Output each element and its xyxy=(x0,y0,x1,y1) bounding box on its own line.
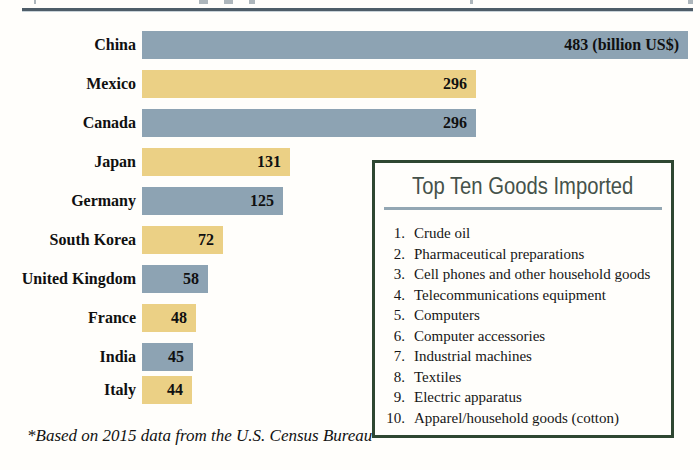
bar-value-label: 296 xyxy=(443,75,476,93)
country-label: Canada xyxy=(0,114,142,132)
bar: 125 xyxy=(142,187,283,215)
country-label: Japan xyxy=(0,153,142,171)
source-footnote: *Based on 2015 data from the U.S. Census… xyxy=(27,426,372,446)
bar-row: China483 (billion US$) xyxy=(0,31,700,59)
goods-item-text: Computers xyxy=(405,305,480,326)
bar-value-label: 131 xyxy=(257,153,290,171)
bar-value-label: 72 xyxy=(198,231,223,249)
goods-list-item: 4.Telecommunications equipment xyxy=(375,285,671,306)
goods-item-number: 5. xyxy=(375,305,405,326)
goods-list-item: 3.Cell phones and other household goods xyxy=(375,264,671,285)
cropped-text-fragment xyxy=(34,0,36,4)
goods-list-item: 10.Apparel/household goods (cotton) xyxy=(375,408,671,429)
bar-value-label: 125 xyxy=(250,192,283,210)
bar: 131 xyxy=(142,148,290,176)
goods-list: 1.Crude oil2.Pharmaceutical preparations… xyxy=(375,223,671,428)
bar-row: Mexico296 xyxy=(0,70,700,98)
goods-item-number: 8. xyxy=(375,367,405,388)
goods-item-number: 4. xyxy=(375,285,405,306)
cropped-text-fragment xyxy=(470,0,473,4)
goods-item-number: 10. xyxy=(375,408,405,429)
goods-list-item: 7.Industrial machines xyxy=(375,346,671,367)
bar-row: Canada296 xyxy=(0,109,700,137)
goods-box-title-text: Top Ten Goods Imported xyxy=(412,173,633,200)
bar-value-label: 45 xyxy=(168,348,193,366)
bar-value-label: 44 xyxy=(167,381,192,399)
goods-list-item: 1.Crude oil xyxy=(375,223,671,244)
cropped-text-fragment xyxy=(249,0,255,4)
bar-value-label: 58 xyxy=(183,270,208,288)
bar: 44 xyxy=(142,376,192,404)
goods-item-number: 1. xyxy=(375,223,405,244)
bar: 58 xyxy=(142,265,208,293)
goods-item-number: 3. xyxy=(375,264,405,285)
country-label: India xyxy=(0,348,142,366)
cropped-text-fragment xyxy=(688,0,693,4)
goods-item-text: Pharmaceutical preparations xyxy=(405,244,584,265)
country-label: South Korea xyxy=(0,231,142,249)
goods-item-text: Cell phones and other household goods xyxy=(405,264,650,285)
goods-list-item: 6.Computer accessories xyxy=(375,326,671,347)
bar: 45 xyxy=(142,343,193,371)
goods-item-number: 6. xyxy=(375,326,405,347)
goods-item-number: 2. xyxy=(375,244,405,265)
goods-box-title: Top Ten Goods Imported xyxy=(375,173,671,200)
country-label: Italy xyxy=(0,381,142,399)
goods-item-text: Textiles xyxy=(405,367,461,388)
top-divider-rule xyxy=(22,8,693,12)
goods-item-text: Computer accessories xyxy=(405,326,545,347)
cropped-text-fragment xyxy=(199,0,208,4)
imports-infographic-page: China483 (billion US$)Mexico296Canada296… xyxy=(0,0,700,470)
goods-list-item: 5.Computers xyxy=(375,305,671,326)
bar-value-label: 48 xyxy=(171,309,196,327)
country-label: Mexico xyxy=(0,75,142,93)
goods-list-item: 8.Textiles xyxy=(375,367,671,388)
goods-item-text: Electric apparatus xyxy=(405,387,522,408)
goods-item-text: Industrial machines xyxy=(405,346,532,367)
country-label: Germany xyxy=(0,192,142,210)
top-ten-goods-box: Top Ten Goods Imported 1.Crude oil2.Phar… xyxy=(372,160,674,438)
goods-list-item: 9.Electric apparatus xyxy=(375,387,671,408)
goods-list-item: 2.Pharmaceutical preparations xyxy=(375,244,671,265)
country-label: France xyxy=(0,309,142,327)
bar-value-label: 483 (billion US$) xyxy=(564,36,688,54)
bar-value-label: 296 xyxy=(443,114,476,132)
bar: 72 xyxy=(142,226,223,254)
bar: 296 xyxy=(142,70,476,98)
bar: 296 xyxy=(142,109,476,137)
country-label: China xyxy=(0,36,142,54)
bar: 483 (billion US$) xyxy=(142,31,688,59)
goods-item-number: 7. xyxy=(375,346,405,367)
cropped-text-fragment xyxy=(224,0,233,4)
goods-item-text: Crude oil xyxy=(405,223,470,244)
goods-item-number: 9. xyxy=(375,387,405,408)
goods-title-divider xyxy=(384,207,662,210)
goods-item-text: Apparel/household goods (cotton) xyxy=(405,408,619,429)
bar: 48 xyxy=(142,304,196,332)
country-label: United Kingdom xyxy=(0,270,142,288)
goods-item-text: Telecommunications equipment xyxy=(405,285,606,306)
